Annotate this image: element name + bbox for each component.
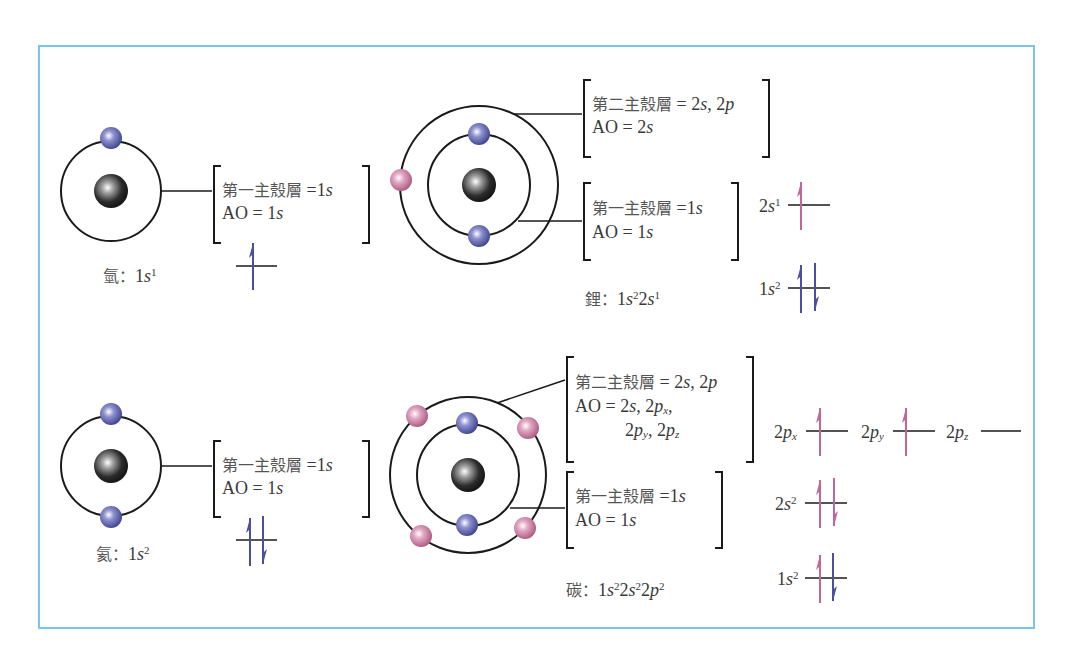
electron-valence (390, 169, 412, 191)
orbital-label-2px: 2px (774, 421, 797, 443)
nucleus (451, 458, 485, 492)
atomic-orbital-label: AO = 1s (592, 221, 653, 243)
bracket-right (362, 441, 369, 517)
atomic-structure-diagram (0, 0, 1077, 663)
helium-orbital-diagram (236, 516, 277, 566)
nucleus (462, 168, 496, 202)
orbital-label-2s: 2s1 (759, 195, 781, 217)
electron (100, 403, 122, 425)
shell-label: 第二主殼層 = 2s, 2p (592, 93, 734, 116)
nucleus (94, 174, 128, 208)
atomic-orbital-label: AO = 1s (575, 509, 636, 531)
atomic-orbital-label: AO = 2s (592, 116, 653, 138)
orbital-label-2py: 2py (861, 421, 884, 443)
bracket-left (567, 472, 574, 548)
electron-valence (517, 417, 539, 439)
atomic-orbital-label: AO = 1s (222, 477, 283, 499)
lithium-atom-model (390, 106, 558, 264)
electron-valence (410, 525, 432, 547)
electron-config-label: 鋰：1s22s1 (585, 288, 660, 311)
electron-config-label: 碳：1s22s22p2 (566, 579, 665, 602)
nucleus (94, 449, 128, 483)
electron (456, 412, 478, 434)
hydrogen-orbital-diagram (236, 243, 277, 290)
electron (456, 514, 478, 536)
shell-label: 第一主殼層 =1s (592, 197, 703, 220)
orbital-label-1s: 1s2 (777, 568, 799, 590)
electron-config-label: 氦：1s2 (96, 543, 150, 566)
electron (468, 123, 490, 145)
bracket-right (731, 183, 738, 260)
orbital-label-2pz: 2pz (946, 421, 968, 443)
bracket-right (746, 357, 753, 462)
bracket-left (567, 357, 574, 462)
orbital-label-2s: 2s2 (775, 493, 797, 515)
shell-label: 第一主殼層 =1s (222, 454, 333, 477)
carbon-orbital-diagram (805, 408, 1021, 603)
electron (468, 225, 490, 247)
helium-atom-model (61, 403, 161, 528)
bracket-right (762, 80, 769, 157)
connector-line (497, 380, 565, 403)
bracket-right (362, 166, 369, 243)
atomic-orbital-label: AO = 1s (222, 202, 283, 224)
shell-label: 第一主殼層 =1s (575, 485, 686, 508)
orbital-label-1s: 1s2 (759, 278, 781, 300)
shell-label: 第二主殼層 = 2s, 2p (575, 371, 717, 394)
carbon-atom-model (390, 397, 546, 553)
bracket-left (214, 441, 221, 517)
atomic-orbital-label: AO = 2s, 2px, (575, 395, 673, 417)
electron (100, 506, 122, 528)
electron (100, 127, 122, 149)
bracket-left (584, 80, 591, 157)
hydrogen-atom-model (61, 127, 161, 241)
electron-valence (406, 405, 428, 427)
bracket-right (715, 472, 722, 548)
atomic-orbital-label-cont: 2py, 2pz (625, 419, 679, 441)
shell-label: 第一主殼層 =1s (222, 179, 333, 202)
electron-valence (514, 517, 536, 539)
bracket-left (214, 166, 221, 243)
electron-config-label: 氫：1s1 (103, 265, 157, 288)
bracket-left (584, 183, 591, 260)
lithium-orbital-diagram (788, 182, 830, 313)
